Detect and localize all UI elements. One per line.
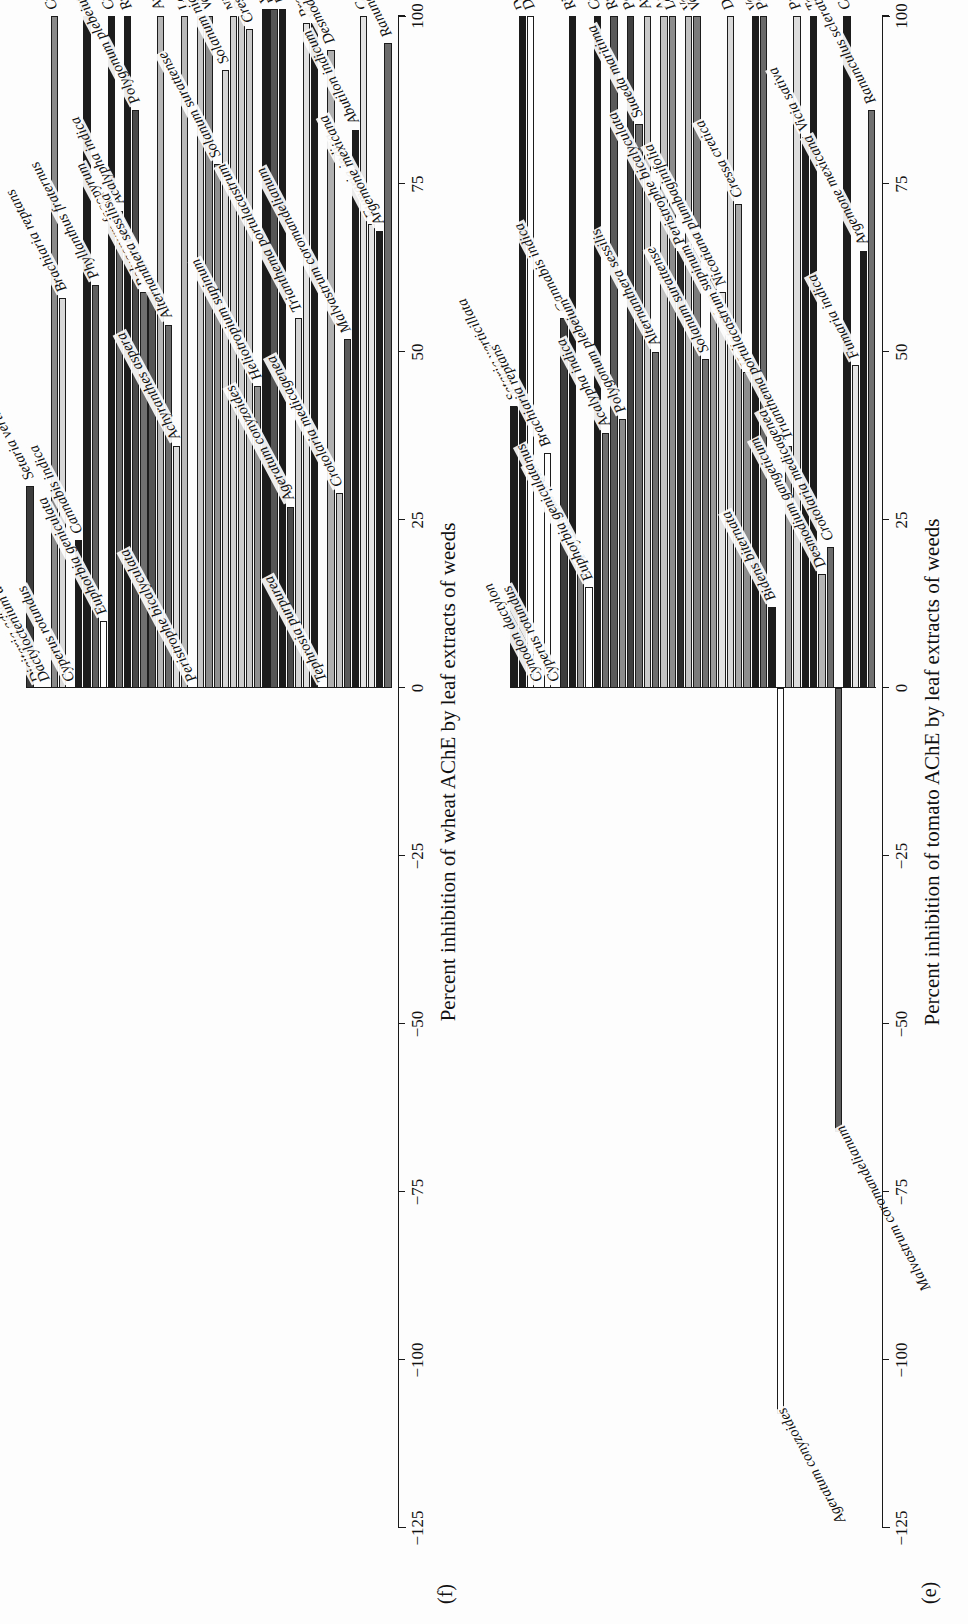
- bar[interactable]: [336, 493, 343, 688]
- axis-tick: [882, 855, 889, 856]
- bar-label: Rumex dentatus: [76, 0, 135, 14]
- bar[interactable]: [83, 16, 90, 688]
- bar[interactable]: [384, 43, 391, 688]
- bar[interactable]: [287, 507, 294, 688]
- bar[interactable]: [810, 16, 817, 688]
- bar[interactable]: [519, 16, 526, 688]
- bar[interactable]: [802, 137, 809, 688]
- bar[interactable]: [165, 325, 172, 688]
- bar[interactable]: [181, 16, 188, 688]
- bar[interactable]: [157, 16, 164, 688]
- bar-label: Nicotiana plumbaginifolia: [152, 0, 241, 14]
- bar[interactable]: [368, 224, 375, 688]
- bar[interactable]: [827, 547, 834, 688]
- bar[interactable]: [26, 486, 33, 688]
- bar[interactable]: [327, 50, 334, 688]
- bar[interactable]: [270, 9, 277, 688]
- bar[interactable]: [710, 278, 717, 688]
- axis-tick-label: −25: [408, 843, 428, 870]
- bar[interactable]: [577, 567, 584, 688]
- bar[interactable]: [793, 16, 800, 688]
- bar[interactable]: [777, 688, 784, 1414]
- bar[interactable]: [108, 16, 115, 688]
- bar-label: Bidens biternata: [228, 0, 289, 7]
- bar[interactable]: [693, 16, 700, 688]
- bar[interactable]: [132, 110, 139, 688]
- bar[interactable]: [148, 292, 155, 688]
- bar[interactable]: [619, 419, 626, 688]
- bar[interactable]: [560, 318, 567, 688]
- bar[interactable]: [262, 9, 269, 688]
- bar[interactable]: [760, 16, 767, 688]
- bar-label: Ranunculus scleratus: [320, 0, 395, 40]
- bar[interactable]: [860, 251, 867, 688]
- bar[interactable]: [702, 359, 709, 688]
- bar-label: Veronica agrestis: [145, 0, 208, 14]
- bar[interactable]: [75, 540, 82, 688]
- bar[interactable]: [205, 16, 212, 688]
- bar[interactable]: [585, 587, 592, 688]
- bar[interactable]: [59, 298, 66, 688]
- bar-label: Datura innoxia: [680, 0, 737, 14]
- bar[interactable]: [222, 70, 229, 688]
- bar[interactable]: [644, 16, 651, 688]
- bar[interactable]: [594, 16, 601, 688]
- bar[interactable]: [295, 318, 302, 688]
- bar[interactable]: [602, 433, 609, 688]
- bar[interactable]: [743, 372, 750, 688]
- bar-label: Verbascum chinense: [633, 0, 704, 14]
- chart-panel-e: Setaria verticillataDigitaria adscendens…: [484, 0, 968, 1624]
- bar[interactable]: [116, 211, 123, 688]
- bar[interactable]: [768, 607, 775, 688]
- bar-label: Vicia sativa: [765, 64, 812, 135]
- bar[interactable]: [173, 446, 180, 688]
- bar[interactable]: [677, 251, 684, 688]
- bar[interactable]: [544, 453, 551, 688]
- axis-tick: [398, 1359, 405, 1360]
- bar[interactable]: [510, 406, 517, 688]
- bar[interactable]: [254, 386, 261, 688]
- bar[interactable]: [669, 16, 676, 688]
- bar-label: Cynodon dactylon: [0, 0, 62, 14]
- bar[interactable]: [197, 16, 204, 688]
- bar[interactable]: [727, 16, 734, 688]
- bar[interactable]: [311, 23, 318, 688]
- bar[interactable]: [100, 621, 107, 688]
- bar[interactable]: [279, 9, 286, 688]
- bar[interactable]: [246, 29, 253, 688]
- bar-label: Croton bonplandianum: [39, 0, 119, 14]
- bar[interactable]: [352, 130, 359, 688]
- bar[interactable]: [238, 16, 245, 688]
- bar-label: Polygonum plebeium: [69, 0, 143, 108]
- bar[interactable]: [660, 16, 667, 688]
- bar[interactable]: [735, 204, 742, 688]
- bar[interactable]: [527, 16, 534, 688]
- bar[interactable]: [685, 16, 692, 688]
- bar[interactable]: [785, 446, 792, 688]
- bar[interactable]: [627, 16, 634, 688]
- bar[interactable]: [818, 574, 825, 688]
- bar[interactable]: [230, 16, 237, 688]
- axis-tick: [882, 183, 889, 184]
- bar[interactable]: [635, 124, 642, 688]
- bar[interactable]: [835, 688, 842, 1132]
- bar[interactable]: [92, 285, 99, 688]
- bar[interactable]: [752, 16, 759, 688]
- bar-label: Brachiaria reptans: [2, 186, 70, 295]
- bar[interactable]: [610, 16, 617, 688]
- bar[interactable]: [843, 16, 850, 688]
- bar[interactable]: [344, 339, 351, 688]
- bar[interactable]: [852, 365, 859, 688]
- bar[interactable]: [569, 16, 576, 688]
- bar[interactable]: [868, 110, 875, 688]
- bar[interactable]: [376, 231, 383, 688]
- bar[interactable]: [214, 164, 221, 688]
- axis-tick-label: −100: [408, 1342, 428, 1377]
- bar[interactable]: [652, 352, 659, 688]
- bar[interactable]: [718, 292, 725, 688]
- bar[interactable]: [124, 16, 131, 688]
- bar[interactable]: [140, 292, 147, 688]
- bar[interactable]: [360, 16, 367, 688]
- bar[interactable]: [51, 16, 58, 688]
- bar[interactable]: [303, 23, 310, 688]
